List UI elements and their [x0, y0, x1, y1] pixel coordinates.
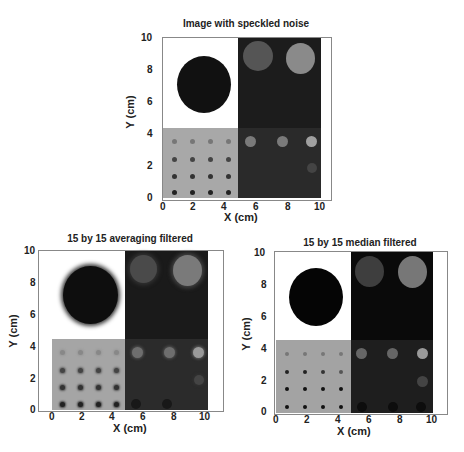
dot: [208, 139, 213, 144]
right-plot-axes: [274, 251, 448, 415]
dot: [60, 368, 65, 373]
small-disk: [277, 136, 288, 147]
small-disk: [417, 376, 428, 387]
xtick: 0: [273, 414, 279, 425]
dot: [321, 352, 325, 356]
dot: [190, 174, 195, 179]
small-disk: [193, 347, 204, 358]
left-image: [52, 251, 208, 410]
gray-disk-1: [243, 41, 273, 71]
xtick: 6: [366, 414, 372, 425]
top-xlabel: X (cm): [224, 211, 258, 223]
small-disk: [162, 399, 172, 409]
right-ylabel: Y (cm): [240, 317, 252, 350]
dot: [114, 368, 119, 373]
ytick: 8: [147, 64, 153, 75]
dot: [226, 190, 231, 195]
xtick: 2: [190, 201, 196, 212]
dot: [60, 402, 65, 407]
dot: [339, 405, 343, 409]
dot: [172, 139, 177, 144]
xtick: 10: [314, 201, 325, 212]
dot: [78, 350, 83, 355]
dot: [190, 190, 195, 195]
ytick: 10: [24, 245, 35, 256]
xtick: 4: [109, 411, 115, 422]
dot: [96, 368, 101, 373]
xtick: 10: [426, 414, 437, 425]
small-disk: [132, 347, 143, 358]
gray-disk-2: [398, 256, 427, 288]
dot: [208, 174, 213, 179]
ytick: 10: [254, 247, 265, 258]
dot: [208, 157, 213, 162]
xtick: 2: [79, 411, 85, 422]
right-image: [276, 252, 433, 413]
small-disk: [417, 348, 428, 359]
dot: [339, 387, 343, 391]
ytick: 8: [30, 277, 36, 288]
small-disk: [194, 375, 204, 385]
xtick: 8: [397, 414, 403, 425]
small-disk: [307, 163, 317, 173]
small-disk: [388, 402, 398, 412]
xtick: 6: [140, 411, 146, 422]
dot: [190, 139, 195, 144]
ytick: 2: [30, 373, 36, 384]
dot: [303, 387, 307, 391]
large-dark-disk: [177, 56, 231, 113]
ytick: 0: [30, 404, 36, 415]
gray-disk-2: [286, 43, 315, 74]
dot: [78, 402, 83, 407]
dot: [60, 350, 65, 355]
top-plot-axes: [162, 37, 332, 201]
left-xlabel: X (cm): [113, 422, 147, 434]
right-plot-title: 15 by 15 median filtered: [272, 237, 448, 248]
dot: [172, 157, 177, 162]
dot: [303, 352, 307, 356]
small-disk: [357, 402, 367, 412]
dot: [285, 387, 289, 391]
dot: [339, 370, 343, 374]
xtick: 8: [285, 201, 291, 212]
xtick: 2: [304, 414, 310, 425]
ytick: 4: [30, 341, 36, 352]
dot: [208, 190, 213, 195]
quadrant-bottom-left: [276, 340, 351, 413]
dot: [303, 405, 307, 409]
dot: [96, 385, 101, 390]
dot: [114, 385, 119, 390]
ytick: 6: [30, 309, 36, 320]
dot: [114, 350, 119, 355]
ytick: 6: [147, 96, 153, 107]
dot: [321, 405, 325, 409]
xtick: 0: [160, 201, 166, 212]
dot: [96, 350, 101, 355]
large-dark-disk: [63, 266, 118, 324]
gray-disk-1: [130, 255, 157, 283]
dot: [190, 157, 195, 162]
dot: [60, 385, 65, 390]
dot: [285, 352, 289, 356]
dot: [226, 139, 231, 144]
dot: [172, 190, 177, 195]
small-disk: [356, 348, 367, 359]
dot: [285, 370, 289, 374]
xtick: 8: [171, 411, 177, 422]
dot: [321, 370, 325, 374]
left-plot-axes: [38, 250, 224, 412]
dot: [78, 385, 83, 390]
ytick: 4: [147, 128, 153, 139]
left-ylabel: Y (cm): [7, 314, 19, 347]
top-ylabel: Y (cm): [124, 95, 136, 128]
dot: [321, 387, 325, 391]
dot: [172, 174, 177, 179]
ytick: 2: [261, 375, 267, 386]
dot: [226, 174, 231, 179]
xtick: 10: [199, 411, 210, 422]
dot: [339, 352, 343, 356]
gray-disk-1: [355, 256, 384, 287]
dot: [226, 157, 231, 162]
dot: [96, 402, 101, 407]
large-dark-disk: [289, 268, 343, 326]
